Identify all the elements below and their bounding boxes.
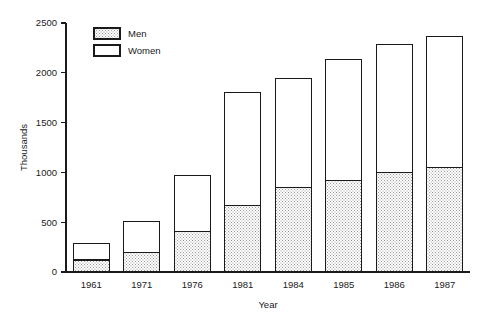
- x-tick-label-1984: 1984: [283, 279, 304, 290]
- y-tick-label-1000: 1000: [36, 167, 57, 178]
- bar-1976: [174, 176, 210, 272]
- legend-label-women: Women: [128, 45, 161, 56]
- x-tick-label-1987: 1987: [434, 279, 455, 290]
- legend-swatch-women: [94, 45, 120, 56]
- bar-1981: [225, 93, 261, 272]
- bar-segment-women-1986: [376, 45, 412, 173]
- bar-segment-women-1971: [124, 221, 160, 252]
- bar-segment-men-1976: [174, 231, 210, 272]
- x-axis-title: Year: [258, 299, 277, 310]
- bar-1984: [275, 78, 311, 272]
- bar-1971: [124, 221, 160, 272]
- x-tick-label-1985: 1985: [333, 279, 354, 290]
- y-tick-label-0: 0: [52, 266, 57, 277]
- y-tick-label-2500: 2500: [36, 17, 57, 28]
- bar-1987: [427, 36, 463, 272]
- bar-segment-men-1987: [427, 168, 463, 272]
- bar-1985: [326, 59, 362, 272]
- bar-1986: [376, 45, 412, 272]
- chart-legend: MenWomen: [94, 28, 161, 56]
- bars-group: [73, 36, 463, 272]
- chart-canvas: 0500100015002000250019611971197619811984…: [0, 0, 498, 323]
- bar-segment-women-1985: [326, 59, 362, 181]
- bar-segment-men-1971: [124, 252, 160, 272]
- y-tick-label-2000: 2000: [36, 67, 57, 78]
- bar-segment-women-1976: [174, 176, 210, 231]
- bar-segment-women-1961: [73, 243, 109, 260]
- bar-segment-men-1961: [73, 260, 109, 272]
- bar-segment-men-1986: [376, 173, 412, 272]
- x-tick-label-1971: 1971: [131, 279, 152, 290]
- legend-label-men: Men: [128, 28, 146, 39]
- y-axis-title: Thousands: [18, 124, 29, 171]
- bar-segment-women-1984: [275, 78, 311, 188]
- x-tick-label-1986: 1986: [384, 279, 405, 290]
- bar-1961: [73, 243, 109, 272]
- stacked-bar-chart: 0500100015002000250019611971197619811984…: [0, 0, 498, 323]
- y-tick-label-500: 500: [41, 217, 57, 228]
- x-tick-label-1961: 1961: [81, 279, 102, 290]
- bar-segment-men-1984: [275, 188, 311, 272]
- bar-segment-women-1987: [427, 36, 463, 167]
- legend-swatch-men: [94, 28, 120, 39]
- x-tick-label-1976: 1976: [182, 279, 203, 290]
- bar-segment-men-1985: [326, 181, 362, 272]
- y-tick-label-1500: 1500: [36, 117, 57, 128]
- bar-segment-women-1981: [225, 93, 261, 206]
- x-tick-label-1981: 1981: [232, 279, 253, 290]
- bar-segment-men-1981: [225, 205, 261, 272]
